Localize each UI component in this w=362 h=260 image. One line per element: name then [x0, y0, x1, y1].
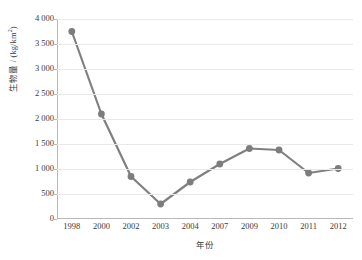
data-point-marker	[246, 145, 253, 152]
gridline	[57, 144, 353, 145]
data-point-marker	[187, 179, 194, 186]
x-axis-tick-label: 2003	[152, 221, 169, 232]
y-axis-tick-mark	[53, 69, 57, 70]
y-axis-tick-mark	[53, 119, 57, 120]
gridline	[57, 69, 353, 70]
x-axis-tick-label: 2009	[241, 221, 258, 232]
y-axis-tick-mark	[53, 144, 57, 145]
x-axis-tick-label: 2012	[330, 221, 347, 232]
x-axis-tick-label: 2011	[300, 221, 317, 232]
data-point-marker	[128, 173, 135, 180]
gridline	[57, 194, 353, 195]
y-axis-tick-mark	[53, 194, 57, 195]
y-axis-tick-label: 0	[18, 214, 54, 223]
y-axis-tick-label: 1 000	[18, 164, 54, 173]
biomass-line-chart: 生物量 / (kg/km2) 05001 0001 5002 0002 5003…	[0, 0, 362, 260]
y-axis-tick-mark	[53, 169, 57, 170]
y-axis-tick-mark	[53, 19, 57, 20]
gridline	[57, 44, 353, 45]
y-axis-tick-mark	[53, 94, 57, 95]
y-axis-tick-label: 3 500	[18, 39, 54, 48]
y-axis-tick-labels: 05001 0001 5002 0002 5003 0003 5004 000	[18, 0, 54, 260]
plot-area	[57, 19, 353, 219]
gridline	[57, 119, 353, 120]
x-axis-tick-label: 2002	[123, 221, 140, 232]
x-axis-tick-label: 1998	[63, 221, 80, 232]
y-axis-tick-label: 2 500	[18, 89, 54, 98]
y-axis-tick-mark	[53, 44, 57, 45]
x-axis-tick-label: 2010	[271, 221, 288, 232]
y-axis-tick-label: 1 500	[18, 139, 54, 148]
data-point-marker	[216, 161, 223, 168]
y-axis-tick-label: 2 000	[18, 114, 54, 123]
data-point-marker	[98, 111, 105, 118]
y-axis-title-suffix: )	[8, 26, 18, 29]
series-line	[72, 32, 338, 205]
gridline	[57, 94, 353, 95]
data-point-marker	[68, 28, 75, 35]
x-axis-tick-label: 2007	[211, 221, 228, 232]
y-axis-tick-label: 500	[18, 189, 54, 198]
x-axis-title: 年份	[57, 238, 353, 250]
x-axis-tick-label: 2004	[182, 221, 199, 232]
y-axis-title-prefix: 生物量 / (kg/km	[8, 32, 18, 91]
data-point-marker	[276, 147, 283, 154]
x-axis-tick-label: 2000	[93, 221, 110, 232]
gridline	[57, 19, 353, 20]
y-axis-tick-mark	[53, 219, 57, 220]
y-axis-tick-label: 3 000	[18, 64, 54, 73]
y-axis-title-superscript: 2	[7, 29, 13, 32]
x-axis-tick-labels: 1998200020022003200420072009201020112012	[57, 221, 353, 235]
data-point-marker	[305, 170, 312, 177]
gridline	[57, 169, 353, 170]
y-axis-tick-label: 4 000	[18, 14, 54, 23]
data-point-marker	[157, 201, 164, 208]
